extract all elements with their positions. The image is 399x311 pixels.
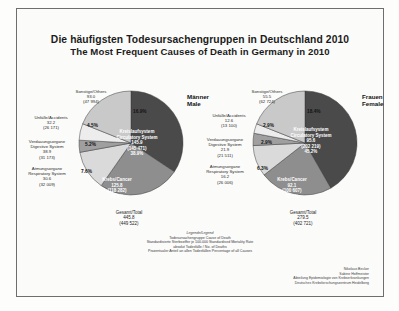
legend-line-4: Prozentualer Anteil an allen Todesfällen…	[17, 249, 383, 254]
callout-male-respiratory-count: (32 009)	[17, 182, 77, 187]
group-label-female-de: Frauen	[362, 93, 383, 100]
callout-female-respiratory: Atmungsorgane Respiratory System 16.2 (2…	[195, 164, 255, 185]
callout-female-digestive-count: (21 511)	[195, 153, 255, 158]
inlabel-female-cancer: Krebs/Cancer 92.1 (100 607) 22.4%	[268, 177, 316, 199]
pct-female-accidents: 2.9%	[263, 123, 274, 128]
pct-female-digestive: 2.9%	[261, 140, 272, 145]
callout-male-accidents: Unfälle/Accidents 32.2 (26 171)	[23, 115, 79, 131]
pct-male-respiratory: 7.6%	[81, 169, 92, 174]
callout-female-accidents: Unfälle/Accidents 12.6 (13 100)	[201, 113, 257, 129]
pct-female-others: 18.4%	[307, 109, 321, 114]
group-label-female: Frauen Female	[362, 93, 383, 108]
inlabel-female-circulatory-pct: 45.2%	[285, 149, 337, 155]
inlabel-male-cancer: Krebs/Cancer 125.8 (118 282) 28.9%	[93, 177, 141, 199]
callout-female-digestive: Verdauungsorgane Digestive System 21.9 (…	[195, 137, 255, 158]
inlabel-female-circulatory: Kreislaufsystem Circulatory System 95.6 …	[285, 127, 337, 155]
pct-female-respiratory: 6.3%	[257, 166, 268, 171]
callout-male-accidents-count: (26 171)	[23, 125, 79, 130]
inlabel-male-circulatory-pct: 38.9%	[111, 151, 163, 157]
inlabel-male-circulatory: Kreislaufsystem Circulatory System 145.9…	[111, 129, 163, 157]
credit-block: Nikolaus Becker Sabine Hoffmeister Abtei…	[293, 267, 369, 285]
group-label-male-de: Männer	[187, 93, 209, 100]
callout-male-digestive-count: (31 173)	[17, 155, 77, 160]
callout-male-respiratory: Atmungsorgane Respiratory System 30.6 (3…	[17, 166, 77, 187]
callout-male-digestive: Verdauungsorgane Digestive System 38.9 (…	[17, 139, 77, 160]
inlabel-male-cancer-pct: 28.9%	[93, 194, 141, 200]
group-label-male: Männer Male	[187, 93, 209, 108]
callout-male-others: Sonstige/Others 93.0 (47 994)	[63, 89, 119, 105]
callout-female-respiratory-count: (26 006)	[195, 180, 255, 185]
title-german: Die häufigsten Todesursachengruppen in D…	[17, 33, 383, 46]
total-male: Gesamt/Total 445.8 (449 522)	[101, 210, 157, 226]
pct-male-others: 16.9%	[133, 109, 147, 114]
callout-male-others-count: (47 994)	[63, 99, 119, 104]
credit-line-4: Deutsches Krebsforschungszentrum Heidelb…	[293, 281, 369, 286]
title-english: The Most Frequent Causes of Death in Ger…	[17, 46, 383, 58]
callout-female-others: Sonstige/Others 55.5 (62 724)	[239, 89, 295, 105]
chart-title: Die häufigsten Todesursachengruppen in D…	[17, 33, 383, 58]
pct-male-accidents: 4.5%	[87, 123, 98, 128]
total-male-count: (449 522)	[101, 221, 157, 226]
total-female: Gesamt/Total 279.5 (402 721)	[275, 210, 331, 226]
group-label-female-en: Female	[362, 100, 383, 107]
pct-male-digestive: 5.2%	[85, 142, 96, 147]
chart-page: Die häufigsten Todesursachengruppen in D…	[0, 0, 399, 311]
legend-block: Legende/Legend Todesursachengruppe Cause…	[17, 231, 383, 254]
total-female-count: (402 721)	[275, 221, 331, 226]
group-label-male-en: Male	[187, 100, 209, 107]
chart-frame: Die häufigsten Todesursachengruppen in D…	[16, 8, 384, 297]
callout-female-accidents-count: (13 100)	[201, 123, 257, 128]
inlabel-female-cancer-pct: 22.4%	[268, 194, 316, 200]
callout-female-others-count: (62 724)	[239, 99, 295, 104]
